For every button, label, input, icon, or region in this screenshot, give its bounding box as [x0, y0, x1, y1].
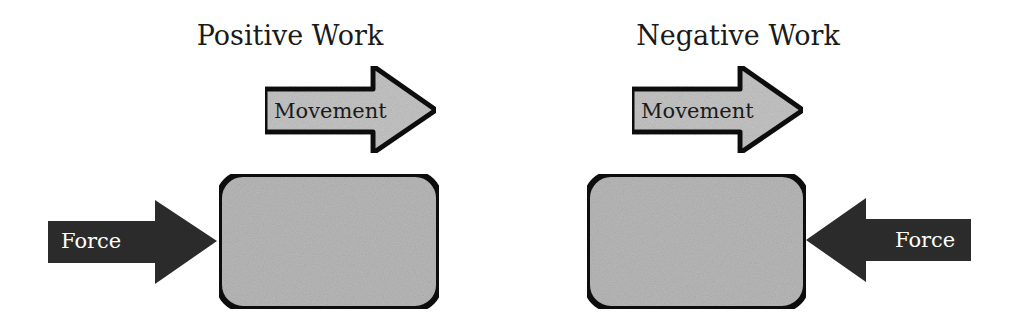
force-label: Force [895, 228, 955, 252]
block [219, 174, 439, 309]
movement-arrow: Movement [632, 66, 803, 153]
movement-arrow: Movement [265, 66, 436, 153]
movement-label: Movement [274, 99, 387, 123]
panel-title: Positive Work [197, 20, 384, 51]
movement-label: Movement [641, 99, 754, 123]
block [587, 174, 806, 309]
positive-work-panel: Positive Work Movement Force [48, 20, 439, 309]
force-label: Force [61, 229, 121, 253]
negative-work-panel: Negative Work Movement Force [587, 20, 971, 309]
force-arrow: Force [806, 198, 971, 282]
force-arrow: Force [48, 200, 217, 284]
work-diagram: Positive Work Movement Force Negative Wo… [0, 0, 1016, 333]
panel-title: Negative Work [636, 20, 840, 51]
